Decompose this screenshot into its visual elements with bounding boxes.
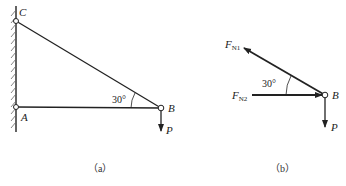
joint-b-free [322, 92, 328, 98]
joint-b [158, 105, 164, 111]
figure-b: FN1 FN2 B P 30° （b） [224, 38, 339, 174]
label-p-free: P [330, 121, 338, 133]
force-fn1-arrow [244, 48, 325, 95]
joint-c [14, 19, 19, 24]
wall-support [11, 6, 16, 132]
label-fn1: FN1 [224, 38, 241, 52]
angle-label-b: 30° [262, 78, 276, 89]
label-p: P [165, 124, 173, 136]
label-fn2: FN2 [231, 89, 248, 103]
caption-a: （a） [88, 163, 112, 174]
joint-a [14, 105, 19, 110]
label-a: A [20, 111, 28, 123]
member-ab [16, 107, 161, 108]
figure-a: C A B P 30° （a） [11, 6, 175, 174]
angle-arc [131, 93, 135, 108]
truss-diagram: C A B P 30° （a） FN1 FN2 B P 30° （b） [0, 0, 346, 186]
angle-arc-b [286, 76, 291, 95]
label-c: C [19, 6, 27, 18]
member-cb [16, 21, 161, 108]
angle-label: 30° [112, 94, 126, 105]
label-b-free: B [332, 89, 339, 101]
label-b: B [168, 102, 175, 114]
caption-b: （b） [270, 163, 295, 174]
